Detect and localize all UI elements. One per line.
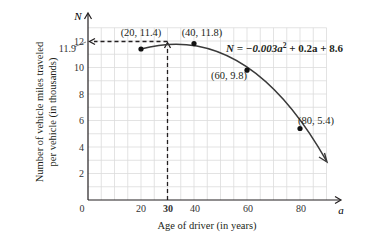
x-tick-0: 0 [80, 203, 85, 214]
x-tick-labels: 0 20 30 40 60 80 [80, 203, 307, 214]
x-tick-20: 20 [136, 203, 146, 214]
equation-label: N = −0.003a2 + 0.2a + 8.6 [225, 41, 343, 55]
svg-text:per vehicle (in thousands): per vehicle (in thousands) [47, 57, 59, 166]
x-tick-80: 80 [296, 203, 306, 214]
x-tick-40: 40 [190, 203, 200, 214]
x-axis-title: Age of driver (in years) [157, 220, 257, 232]
point-80 [297, 126, 302, 131]
label-point-80: (80, 5.4) [298, 115, 334, 127]
label-point-40: (40, 11.8) [182, 27, 223, 39]
svg-text:Number of vehicle miles travel: Number of vehicle miles traveled [34, 41, 45, 182]
y-tick-4: 4 [79, 142, 84, 153]
label-point-20: (20, 11.4) [121, 27, 162, 39]
y-tick-11-9: 11.9 [59, 43, 76, 54]
chart: 0 20 30 40 60 80 2 4 6 8 10 12 11.9 N a … [0, 0, 371, 242]
y-tick-10: 10 [74, 62, 84, 73]
point-40 [191, 41, 196, 46]
y-tick-2: 2 [79, 168, 84, 179]
label-point-60: (60, 9.8) [211, 70, 247, 82]
y-axis-title: Number of vehicle miles traveled per veh… [34, 41, 59, 182]
x-tick-30: 30 [163, 203, 173, 214]
x-tick-60: 60 [243, 203, 253, 214]
y-axis-var: N [73, 10, 82, 22]
x-axis-var: a [338, 204, 344, 216]
y-tick-6: 6 [79, 115, 84, 126]
y-tick-8: 8 [79, 89, 84, 100]
point-20 [138, 46, 143, 51]
y-tick-labels: 2 4 6 8 10 12 11.9 [59, 36, 84, 180]
